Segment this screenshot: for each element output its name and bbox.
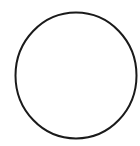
- circle-outline-icon: [16, 13, 137, 139]
- canvas: [0, 0, 140, 146]
